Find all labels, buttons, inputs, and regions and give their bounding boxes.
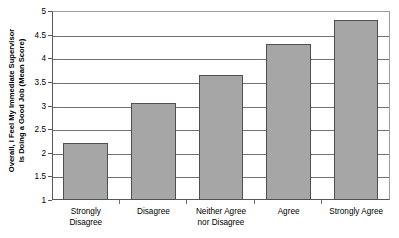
x-tick-slot: [322, 200, 390, 205]
x-axis-label-line-1: Strongly Agree: [329, 207, 383, 216]
bar: [199, 75, 244, 200]
y-tick-label: 2.5: [6, 125, 46, 134]
y-tick-mark: [48, 82, 52, 83]
y-tick-label: 1.5: [6, 172, 46, 181]
x-axis-label: Strongly Agree: [322, 206, 390, 228]
bar-slot: [255, 11, 323, 200]
x-tick-slot: [120, 200, 188, 205]
x-axis-ticks: [52, 200, 390, 205]
x-axis-label-line-2: nor Disagree: [187, 217, 255, 228]
y-tick-label: 4: [6, 54, 46, 63]
x-axis-label-line-1: Agree: [278, 207, 300, 216]
x-tick-slot: [52, 200, 120, 205]
y-tick-mark: [48, 153, 52, 154]
bar-slot: [120, 11, 188, 200]
y-tick-label: 5: [6, 7, 46, 16]
y-tick-mark: [48, 11, 52, 12]
bar: [131, 103, 176, 200]
bar-slot: [187, 11, 255, 200]
x-axis-labels: StronglyDisagreeDisagreeNeither Agreenor…: [52, 206, 390, 228]
x-tick-slot: [255, 200, 323, 205]
bar-slot: [322, 11, 390, 200]
y-tick-mark: [48, 58, 52, 59]
y-tick-mark: [48, 200, 52, 201]
y-tick-mark: [48, 106, 52, 107]
bar-chart: Overall, I Feel My Immediate Supervisor …: [0, 0, 399, 238]
y-tick-mark: [48, 176, 52, 177]
x-tick-slot: [187, 200, 255, 205]
y-tick-mark: [48, 129, 52, 130]
x-axis-label: StronglyDisagree: [52, 206, 120, 228]
x-axis-label: Disagree: [120, 206, 188, 228]
y-tick-label: 3: [6, 101, 46, 110]
bar: [63, 143, 108, 200]
y-tick-label: 1: [6, 196, 46, 205]
bar-slot: [52, 11, 120, 200]
x-axis-label-line-2: Disagree: [52, 217, 120, 228]
x-axis-label: Neither Agreenor Disagree: [187, 206, 255, 228]
y-tick-label: 2: [6, 148, 46, 157]
x-axis-label: Agree: [255, 206, 323, 228]
bar: [266, 44, 311, 200]
y-tick-mark: [48, 35, 52, 36]
y-tick-label: 4.5: [6, 30, 46, 39]
bar: [334, 20, 379, 200]
y-tick-label: 3.5: [6, 77, 46, 86]
x-axis-label-line-1: Neither Agree: [196, 207, 246, 216]
x-axis-label-line-1: Strongly: [71, 207, 101, 216]
bars-layer: [52, 11, 390, 200]
x-axis-label-line-1: Disagree: [137, 207, 170, 216]
